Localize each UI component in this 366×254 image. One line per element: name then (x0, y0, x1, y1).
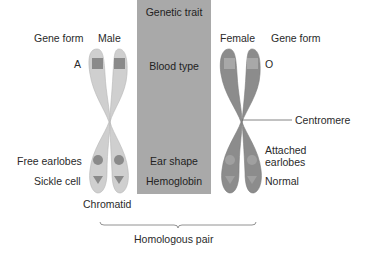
male-chromosome (89, 49, 128, 193)
centromere-label: Centromere (295, 114, 350, 126)
female-ear-shape-marker (225, 155, 235, 165)
female-blood-type-marker (247, 58, 258, 69)
homologous-pair-label: Homologous pair (134, 233, 213, 245)
allele-hemoglobin-right: Normal (265, 175, 299, 187)
allele-blood-type-right: O (265, 58, 273, 70)
allele-ear-shape-right-line2: earlobes (265, 156, 305, 168)
allele-blood-type-left: A (74, 58, 81, 70)
male-ear-shape-marker (114, 155, 124, 165)
allele-ear-shape-left: Free earlobes (17, 155, 82, 167)
chromatid-label: Chromatid (83, 198, 131, 210)
homologous-pair-bracket (100, 222, 256, 228)
male-blood-type-marker (92, 58, 103, 69)
female-blood-type-marker (224, 58, 235, 69)
allele-hemoglobin-left: Sickle cell (34, 175, 81, 187)
male-header: Male (98, 32, 121, 44)
allele-ear-shape-right-line1: Attached (265, 144, 306, 156)
male-ear-shape-marker (93, 155, 103, 165)
female-chromosome (220, 49, 261, 193)
male-blood-type-marker (114, 58, 125, 69)
right-gene-form-header: Gene form (271, 32, 321, 44)
female-ear-shape-marker (247, 155, 257, 165)
female-header: Female (220, 32, 255, 44)
left-gene-form-header: Gene form (34, 32, 84, 44)
